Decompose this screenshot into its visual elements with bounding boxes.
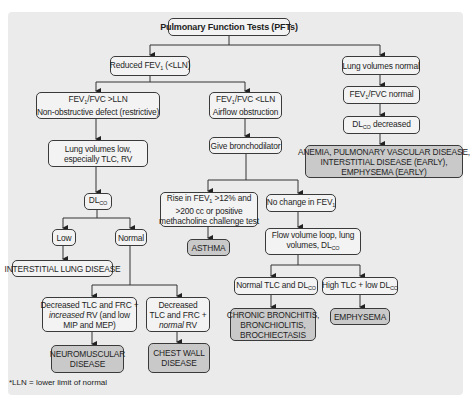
lung-volumes-normal-node: Lung volumes normal (342, 56, 420, 75)
chest-wall-criteria-line1: Decreased (158, 300, 197, 310)
fev1-fvc-normal-node: FEV1/FVC normal (343, 86, 420, 104)
label: FEV (68, 94, 84, 104)
normal-text: Normal (118, 233, 144, 243)
emphasis: increased (49, 310, 84, 320)
label: DL (89, 195, 99, 205)
normal-tlc-dlco-text: Normal TLC and DLCO (236, 280, 316, 293)
anemia-line2: INTERSTITIAL DISEASE (EARLY), (321, 157, 448, 167)
rise-fev1-line3: methacholine challenge test (159, 216, 259, 226)
no-change-fev1-node: No change in FEV1 (266, 194, 336, 212)
flow-volume-line2: volumes, DLCO (287, 240, 340, 253)
interstitial-lung-disease-node: INTERSTITIAL LUNG DISEASE (12, 260, 113, 277)
normal-tlc-dlco-node: Normal TLC and DLCO (234, 277, 318, 295)
interstitial-lung-disease-text: INTERSTITIAL LUNG DISEASE (5, 264, 121, 274)
obstructive-line1: FEV1/FVC <LLN (216, 94, 275, 107)
subscript: CO (99, 200, 107, 206)
neuromuscular-criteria-line1: Decreased TLC and FRC + (40, 300, 138, 310)
label: (<LLN) (163, 60, 190, 70)
high-tlc-low-dlco-text: High TLC + low DLCO (322, 280, 398, 293)
label: No change in FEV (267, 197, 333, 207)
subscript: CO (331, 245, 339, 251)
neuromuscular-criteria-line3: MIP and MEP) (63, 320, 116, 330)
rise-fev1-line1: Rise in FEV1 >12% and (167, 193, 251, 206)
label: /FVC normal (368, 89, 413, 99)
neuromuscular-disease-line1: NEUROMUSCULAR (50, 349, 125, 359)
label: Reduced FEV (110, 60, 161, 70)
label: Normal TLC and DL (236, 280, 308, 290)
label: DL (352, 119, 362, 129)
subscript: CO (308, 285, 316, 291)
emphasis: normal (159, 320, 184, 330)
chest-wall-criteria-line2: TLC and FRC + (150, 310, 207, 320)
reduced-fev1-node: Reduced FEV1 (<LLN) (110, 56, 190, 76)
chronic-bronchitis-line1: CHRONIC BRONCHITIS, (227, 310, 320, 320)
asthma-text: ASTHMA (192, 243, 226, 253)
label: RV (and low (84, 310, 130, 320)
reduced-fev1-text: Reduced FEV1 (<LLN) (110, 60, 191, 73)
restrictive-node: FEV1/FVC >LLN Non-obstructive defect (re… (36, 92, 160, 119)
chronic-bronchitis-line2: BRONCHIOLITIS, (240, 320, 305, 330)
label: >12% and (212, 193, 251, 203)
neuromuscular-disease-line2: DISEASE (70, 359, 105, 369)
anemia-line3: EMPHYSEMA (EARLY) (341, 167, 426, 177)
give-bronchodilator-node: Give bronchodilator (209, 137, 282, 154)
dlco-normal-node: Normal (115, 229, 147, 246)
obstructive-node: FEV1/FVC <LLN Airflow obstruction (209, 92, 282, 119)
neuromuscular-criteria-line2: increased RV (and low (49, 310, 130, 320)
rise-fev1-node: Rise in FEV1 >12% and >200 cc or positiv… (160, 192, 258, 227)
chronic-bronchitis-diagnosis-node: CHRONIC BRONCHITIS, BRONCHIOLITIS, BROCH… (230, 308, 316, 341)
dlco-text: DLCO (89, 195, 107, 208)
lung-volumes-low-line1: Lung volumes low, (65, 144, 131, 154)
chest-wall-disease-line2: DISEASE (161, 358, 196, 368)
emphysema-text: EMPHYSEMA (334, 312, 386, 322)
flow-volume-loop-node: Flow volume loop, lung volumes, DLCO (265, 228, 361, 255)
fev1-fvc-normal-text: FEV1/FVC normal (349, 89, 413, 102)
restrictive-line2: Non-obstructive defect (restrictive) (37, 107, 159, 117)
label: High TLC + low DL (322, 280, 390, 290)
obstructive-line2: Airflow obstruction (213, 107, 279, 117)
chronic-bronchitis-line3: BROCHIECTASIS (240, 330, 306, 340)
label: FEV (349, 89, 365, 99)
dlco-node: DLCO (84, 193, 112, 210)
pfts-title-node: Pulmonary Function Tests (PFTs) (168, 18, 290, 36)
pfts-title-text: Pulmonary Function Tests (PFTs) (160, 22, 298, 32)
label: /FVC >LLN (87, 94, 127, 104)
label: RV (184, 320, 197, 330)
anemia-line1: ANEMIA, PULMONARY VASCULAR DISEASE, (298, 147, 470, 157)
chest-wall-disease-line1: CHEST WALL (153, 348, 205, 358)
footnote: *LLN = lower limit of normal (9, 378, 107, 387)
label: Rise in FEV (167, 193, 210, 203)
rise-fev1-line2: >200 cc or positive (175, 206, 242, 216)
no-change-fev1-text: No change in FEV1 (267, 197, 336, 210)
subscript: 1 (332, 202, 335, 208)
label: FEV (216, 94, 232, 104)
chest-wall-disease-node: CHEST WALL DISEASE (148, 343, 210, 373)
dlco-low-node: Low (52, 229, 76, 246)
lung-volumes-normal-text: Lung volumes normal (342, 61, 419, 71)
subscript: CO (363, 124, 371, 130)
label: volumes, DL (287, 240, 332, 250)
dlco-decreased-text: DLCO decreased (352, 119, 410, 132)
give-bronchodilator-text: Give bronchodilator (211, 141, 281, 151)
neuromuscular-disease-node: NEUROMUSCULAR DISEASE (51, 345, 124, 373)
chest-wall-criteria-node: Decreased TLC and FRC + normal RV (146, 297, 210, 332)
label: /FVC <LLN (235, 94, 275, 104)
asthma-diagnosis-node: ASTHMA (187, 239, 230, 256)
label: decreased (371, 119, 411, 129)
subscript: CO (390, 285, 398, 291)
neuromuscular-criteria-node: Decreased TLC and FRC + increased RV (an… (42, 297, 137, 332)
lung-volumes-low-node: Lung volumes low, especially TLC, RV (48, 140, 148, 167)
low-text: Low (57, 233, 72, 243)
restrictive-line1: FEV1/FVC >LLN (68, 94, 127, 107)
dlco-decreased-node: DLCO decreased (343, 116, 420, 134)
flow-volume-line1: Flow volume loop, lung (272, 230, 354, 240)
emphysema-diagnosis-node: EMPHYSEMA (330, 308, 390, 325)
lung-volumes-low-line2: especially TLC, RV (64, 154, 132, 164)
high-tlc-low-dlco-node: High TLC + low DLCO (322, 277, 398, 295)
anemia-vascular-diagnosis-node: ANEMIA, PULMONARY VASCULAR DISEASE, INTE… (305, 145, 463, 178)
chest-wall-criteria-line3: normal RV (159, 320, 197, 330)
